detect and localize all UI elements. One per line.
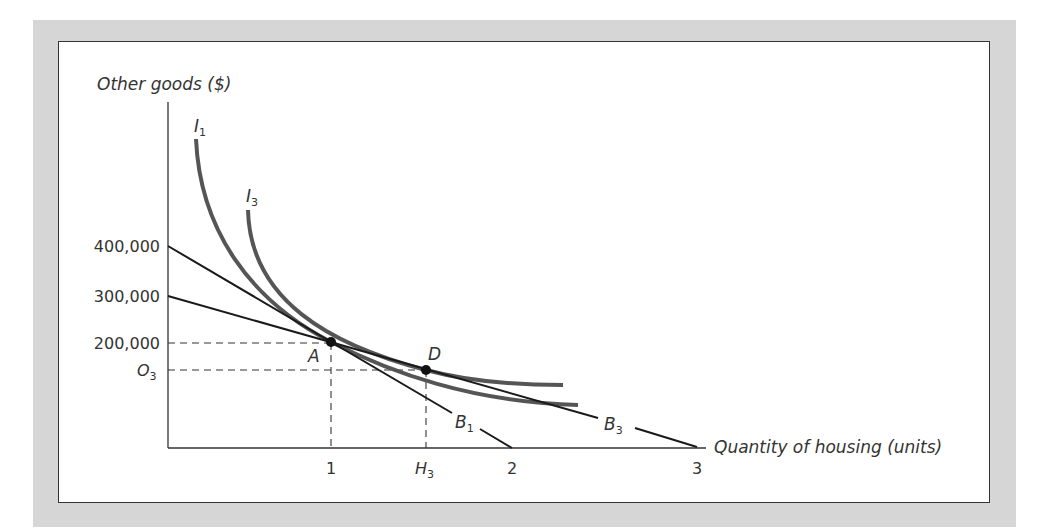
indifference-curve-i1 (196, 139, 578, 405)
x-tick-h3: H3 (415, 459, 434, 481)
label-i3: I3 (246, 186, 258, 209)
label-point-d: D (428, 344, 441, 364)
label-i1: I1 (194, 116, 206, 139)
label-b1: B1 (455, 412, 474, 435)
economics-diagram: Other goods ($) Quantity of housing (uni… (0, 0, 1052, 532)
point-a (326, 337, 336, 347)
x-tick-2: 2 (507, 459, 517, 478)
point-d (421, 365, 431, 375)
y-tick-300000: 300,000 (94, 287, 160, 306)
x-axis-label: Quantity of housing (units) (714, 437, 942, 457)
x-tick-3: 3 (692, 459, 702, 478)
x-tick-1: 1 (326, 459, 336, 478)
y-tick-200000: 200,000 (94, 334, 160, 353)
label-b3: B3 (604, 414, 623, 437)
y-axis-label: Other goods ($) (97, 74, 231, 94)
indifference-curve-i3 (248, 210, 563, 385)
y-tick-o3: O3 (137, 361, 157, 383)
y-tick-400000: 400,000 (94, 237, 160, 256)
label-point-a: A (307, 346, 320, 366)
